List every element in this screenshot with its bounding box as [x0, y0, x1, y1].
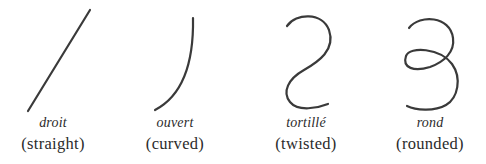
term-rond: rond — [370, 116, 486, 134]
term-ouvert: ouvert — [115, 116, 235, 134]
loop-curve-stroke — [405, 19, 457, 110]
gloss-straight: (straight) — [0, 136, 113, 153]
straight-line-stroke — [28, 10, 90, 111]
label-straight: droit (straight) — [0, 116, 113, 153]
curved-arc-stroke — [155, 18, 193, 110]
gloss-rounded: (rounded) — [370, 136, 486, 153]
s-curve-stroke — [286, 16, 330, 108]
gloss-curved: (curved) — [115, 136, 235, 153]
line-types-figure: droit (straight) ouvert (curved) tortill… — [0, 0, 486, 164]
label-rounded: rond (rounded) — [370, 116, 486, 153]
term-droit: droit — [0, 116, 113, 134]
label-curved: ouvert (curved) — [115, 116, 235, 153]
gloss-twisted: (twisted) — [246, 136, 366, 153]
label-twisted: tortillé (twisted) — [246, 116, 366, 153]
term-tortille: tortillé — [246, 116, 366, 134]
